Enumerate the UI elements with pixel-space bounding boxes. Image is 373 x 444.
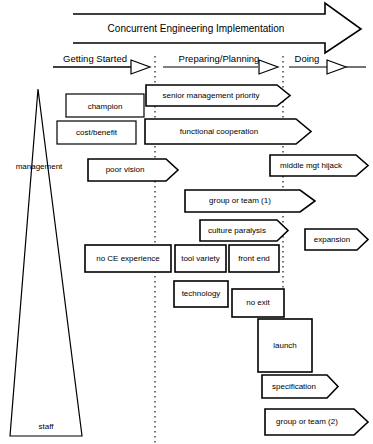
pyramid-bottom-label: staff xyxy=(39,422,55,431)
node-champion-label: champion xyxy=(88,102,123,111)
phase-arrowhead-doing xyxy=(327,60,346,74)
node-launch[interactable]: launch xyxy=(258,319,312,372)
node-expansion[interactable]: expansion xyxy=(305,229,368,250)
node-cost-benefit[interactable]: cost/benefit xyxy=(57,121,136,144)
pyramid-top-label: management xyxy=(16,162,63,171)
diagram-canvas: Concurrent Engineering Implementation Ge… xyxy=(0,0,373,444)
main-arrow-label: Concurrent Engineering Implementation xyxy=(108,23,285,34)
node-senior-management-priority[interactable]: senior management priority xyxy=(146,85,290,106)
phase-getting-started[interactable]: Getting Started xyxy=(53,53,150,74)
node-middle-mgt-hijack[interactable]: middle mgt hijack xyxy=(270,155,368,176)
node-technology-label: technology xyxy=(182,289,221,298)
node-group-or-team-2[interactable]: group or team (2) xyxy=(265,409,368,435)
node-culture-paralysis[interactable]: culture paralysis xyxy=(200,220,288,241)
node-senior-management-priority-label: senior management priority xyxy=(163,91,260,100)
phase-arrowhead-preparing-planning xyxy=(259,60,278,74)
node-specification-label: specification xyxy=(272,382,316,391)
node-poor-vision-label: poor vision xyxy=(106,165,145,174)
node-group-or-team-2-label: group or team (2) xyxy=(276,417,338,426)
node-functional-cooperation[interactable]: functional cooperation xyxy=(145,119,311,144)
node-no-ce-experience[interactable]: no CE experience xyxy=(85,245,171,272)
phase-doing[interactable]: Doing xyxy=(289,53,366,74)
node-specification[interactable]: specification xyxy=(262,375,338,398)
node-tool-variety[interactable]: tool variety xyxy=(175,245,226,272)
node-no-exit-label: no exit xyxy=(246,298,270,307)
node-front-end[interactable]: front end xyxy=(229,245,279,272)
node-expansion-label: expansion xyxy=(314,235,350,244)
node-front-end-label: front end xyxy=(238,254,270,263)
phase-label-doing: Doing xyxy=(295,53,320,64)
node-no-ce-experience-label: no CE experience xyxy=(96,254,160,263)
node-champion[interactable]: champion xyxy=(66,94,144,117)
concurrent-engineering-diagram: Concurrent Engineering Implementation Ge… xyxy=(0,0,373,444)
node-group-or-team-1[interactable]: group or team (1) xyxy=(185,190,315,212)
node-poor-vision[interactable]: poor vision xyxy=(88,159,178,181)
node-cost-benefit-label: cost/benefit xyxy=(76,128,118,137)
phase-label-getting-started: Getting Started xyxy=(63,53,127,64)
node-tool-variety-label: tool variety xyxy=(181,254,220,263)
phase-arrowhead-getting-started xyxy=(131,60,150,74)
node-middle-mgt-hijack-label: middle mgt hijack xyxy=(280,161,343,170)
node-culture-paralysis-label: culture paralysis xyxy=(208,226,266,235)
node-launch-label: launch xyxy=(273,341,297,350)
node-technology[interactable]: technology xyxy=(174,281,228,307)
node-functional-cooperation-label: functional cooperation xyxy=(180,127,258,136)
node-no-exit[interactable]: no exit xyxy=(232,289,284,317)
node-group-or-team-1-label: group or team (1) xyxy=(209,196,271,205)
phase-label-preparing-planning: Preparing/Planning xyxy=(179,53,260,64)
phase-preparing-planning[interactable]: Preparing/Planning xyxy=(163,53,278,74)
